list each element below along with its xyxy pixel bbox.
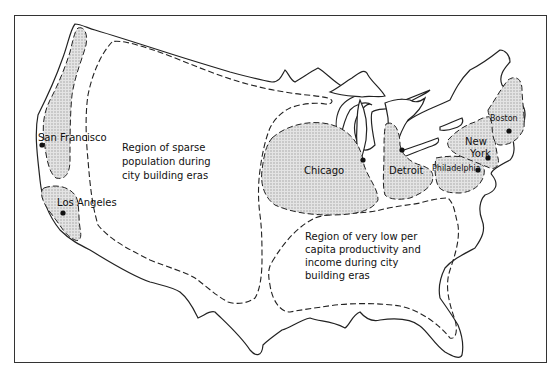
low-income-dashed-boundary: [269, 198, 459, 338]
us-city-regions-map: Region of sparse population during city …: [0, 0, 560, 387]
sparse-region-label: Region of sparse population during city …: [122, 142, 214, 181]
los-angeles-label: Los Angeles: [57, 197, 117, 208]
lake-ontario: [440, 118, 463, 130]
chicago-label: Chicago: [304, 165, 344, 176]
detroit-region: [383, 123, 433, 199]
boston-label: Boston: [490, 114, 518, 123]
boston-region: [488, 78, 524, 145]
chicago-dot: [360, 157, 365, 162]
boston-dot: [506, 128, 511, 133]
los-angeles-dot: [60, 210, 65, 215]
philadelphia-label: Philadelphia: [432, 164, 481, 173]
low-income-region-label: Region of very low per capita productivi…: [305, 231, 424, 281]
detroit-label: Detroit: [389, 165, 424, 176]
san-francisco-label: San Francisco: [38, 132, 107, 143]
new-york-label-line2: York: [469, 148, 491, 159]
san-francisco-dot: [39, 142, 44, 147]
detroit-dot: [399, 147, 404, 152]
new-york-label-line1: New: [465, 136, 487, 147]
